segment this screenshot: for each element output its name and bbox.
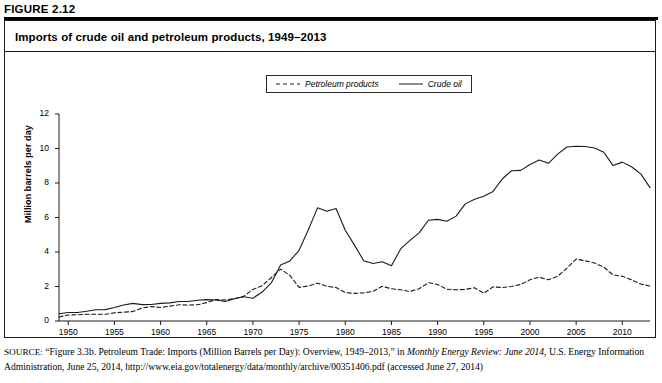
x-tick-label: 1950	[48, 327, 88, 337]
source-note: SOURCE: “Figure 3.3b. Petroleum Trade: I…	[4, 345, 656, 373]
y-tick-label: 8	[27, 177, 49, 187]
legend-label-crude-oil: Crude oil	[428, 79, 462, 89]
x-tick-label: 1965	[187, 327, 227, 337]
x-tick-label: 1955	[94, 327, 134, 337]
plot-area: Million barrels per day 0246810121950195…	[5, 21, 657, 339]
dashed-line-icon	[276, 81, 300, 87]
x-tick-label: 1995	[464, 327, 504, 337]
y-tick-label: 10	[27, 143, 49, 153]
figure-number: FIGURE 2.12	[0, 0, 662, 16]
chart-legend: Petroleum products Crude oil	[266, 75, 472, 93]
y-tick-label: 12	[27, 108, 49, 118]
x-tick-label: 1970	[233, 327, 273, 337]
x-tick-label: 2005	[556, 327, 596, 337]
x-tick-label: 2010	[602, 327, 642, 337]
chart-panel: Imports of crude oil and petroleum produ…	[4, 20, 656, 338]
series-line-petroleum-products	[59, 259, 650, 317]
y-axis-label: Million barrels per day	[23, 114, 33, 234]
y-tick-label: 2	[27, 281, 49, 291]
x-tick-label: 1980	[325, 327, 365, 337]
x-tick-label: 1990	[418, 327, 458, 337]
legend-label-petroleum-products: Petroleum products	[305, 79, 379, 89]
solid-line-icon	[399, 81, 423, 87]
series-line-crude-oil	[59, 146, 650, 313]
source-part1: “Figure 3.3b. Petroleum Trade: Imports (…	[43, 346, 407, 357]
legend-item-crude-oil: Crude oil	[399, 79, 462, 89]
y-tick-label: 6	[27, 212, 49, 222]
x-tick-label: 1975	[279, 327, 319, 337]
source-italic1: Monthly Energy Review: June 2014	[407, 346, 544, 357]
title-divider	[5, 51, 655, 52]
chart-title: Imports of crude oil and petroleum produ…	[5, 21, 655, 43]
y-tick-label: 4	[27, 246, 49, 256]
chart-svg	[5, 21, 657, 339]
x-tick-label: 1960	[141, 327, 181, 337]
x-tick-label: 1985	[371, 327, 411, 337]
legend-item-petroleum-products: Petroleum products	[276, 79, 379, 89]
x-tick-label: 2000	[510, 327, 550, 337]
source-prefix: SOURCE:	[4, 347, 43, 357]
y-tick-label: 0	[27, 315, 49, 325]
